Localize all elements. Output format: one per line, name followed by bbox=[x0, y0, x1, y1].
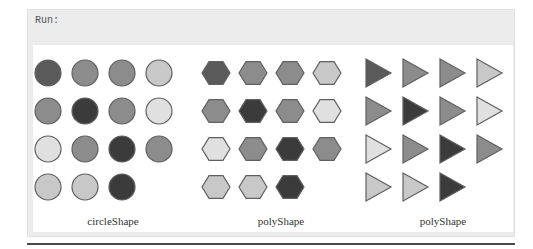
hexagon-icon bbox=[276, 100, 304, 123]
triangle-icon bbox=[477, 97, 502, 125]
bottom-rule bbox=[27, 243, 515, 245]
hexagon-icon bbox=[313, 138, 341, 161]
hexagon-icon bbox=[202, 138, 230, 161]
triangle-icon bbox=[477, 135, 502, 163]
circle-shape-caption: circleShape bbox=[33, 215, 193, 227]
triangle-icon bbox=[366, 173, 391, 201]
triangle-icon bbox=[403, 135, 428, 163]
triangle-icon bbox=[366, 135, 391, 163]
hexagon-icon bbox=[313, 62, 341, 85]
triangle-icon bbox=[440, 135, 465, 163]
circle-icon bbox=[72, 98, 98, 124]
triangle-icon bbox=[477, 59, 502, 87]
circle-icon bbox=[109, 136, 135, 162]
hexagon-icon bbox=[202, 100, 230, 123]
circle-icon bbox=[35, 98, 61, 124]
circle-icon bbox=[109, 98, 135, 124]
circle-icon bbox=[146, 60, 172, 86]
triangle-icon bbox=[366, 97, 391, 125]
triangle-shape-caption: polyShape bbox=[363, 215, 523, 227]
triangle-icon bbox=[440, 97, 465, 125]
hexagon-shape-group: polyShape bbox=[201, 45, 361, 232]
circle-grid bbox=[33, 45, 193, 205]
hexagon-icon bbox=[276, 62, 304, 85]
triangle-icon bbox=[440, 59, 465, 87]
hexagon-icon bbox=[276, 176, 304, 199]
run-label: Run: bbox=[35, 15, 59, 26]
triangle-icon bbox=[403, 59, 428, 87]
hexagon-grid bbox=[201, 45, 361, 205]
circle-icon bbox=[35, 60, 61, 86]
hexagon-icon bbox=[239, 176, 267, 199]
output-frame: Run: circleShape polyShape polyShape bbox=[27, 9, 515, 237]
hexagon-icon bbox=[239, 100, 267, 123]
hexagon-icon bbox=[276, 138, 304, 161]
triangle-icon bbox=[440, 173, 465, 201]
hexagon-icon bbox=[202, 62, 230, 85]
hexagon-icon bbox=[202, 176, 230, 199]
circle-icon bbox=[109, 60, 135, 86]
triangle-shape-group: polyShape bbox=[363, 45, 523, 232]
hexagon-icon bbox=[239, 62, 267, 85]
triangle-icon bbox=[366, 59, 391, 87]
circle-icon bbox=[72, 136, 98, 162]
circle-icon bbox=[35, 174, 61, 200]
hexagon-icon bbox=[239, 138, 267, 161]
circle-icon bbox=[146, 98, 172, 124]
triangle-grid bbox=[363, 45, 523, 205]
circle-icon bbox=[72, 60, 98, 86]
circle-icon bbox=[35, 136, 61, 162]
circle-shape-group: circleShape bbox=[33, 45, 193, 232]
hexagon-shape-caption: polyShape bbox=[201, 215, 361, 227]
canvas-panel: circleShape polyShape polyShape bbox=[33, 45, 513, 232]
hexagon-icon bbox=[313, 100, 341, 123]
triangle-icon bbox=[403, 173, 428, 201]
circle-icon bbox=[146, 136, 172, 162]
circle-icon bbox=[109, 174, 135, 200]
circle-icon bbox=[72, 174, 98, 200]
triangle-icon bbox=[403, 97, 428, 125]
